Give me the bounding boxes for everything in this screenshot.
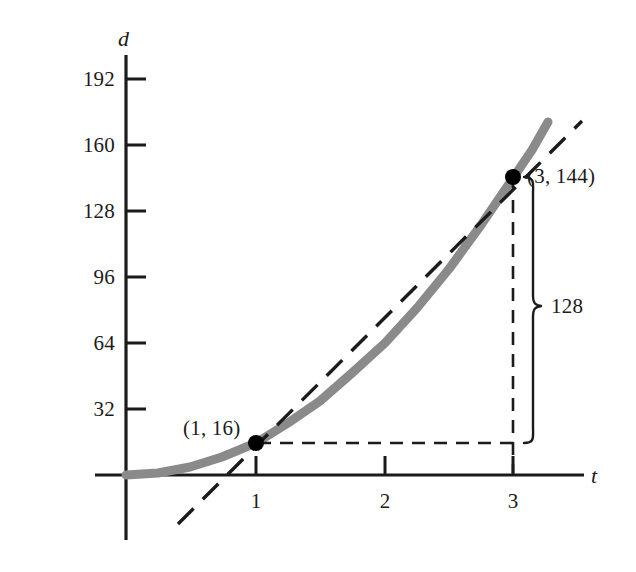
y-tick-label-192: 192 — [63, 69, 115, 90]
y-axis-ticks — [126, 79, 146, 409]
y-tick-label-96: 96 — [63, 267, 115, 288]
y-tick-label-64: 64 — [63, 333, 115, 354]
data-point-3-144 — [505, 169, 521, 185]
y-tick-label-128: 128 — [63, 201, 115, 222]
point-label-3-144: (3, 144) — [527, 166, 595, 187]
graph-figure: d t 192 160 128 96 64 32 1 2 3 (1, 16) (… — [0, 0, 636, 572]
x-tick-label-3: 3 — [493, 491, 533, 512]
y-tick-label-160: 160 — [63, 135, 115, 156]
point-label-1-16: (1, 16) — [183, 418, 240, 439]
y-tick-label-32: 32 — [63, 399, 115, 420]
secant-line-dashed — [178, 121, 582, 524]
x-axis-name: t — [591, 465, 597, 487]
x-axis-ticks — [256, 456, 513, 475]
brace-128 — [524, 177, 541, 443]
x-tick-label-2: 2 — [365, 491, 405, 512]
x-tick-label-1: 1 — [236, 491, 276, 512]
brace-label-128: 128 — [551, 296, 583, 317]
y-axis-name: d — [118, 28, 129, 50]
data-point-1-16 — [248, 435, 264, 451]
